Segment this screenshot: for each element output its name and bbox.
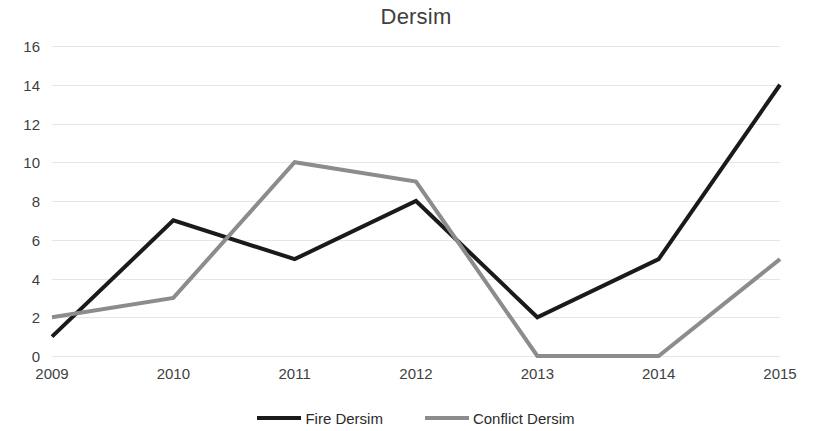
y-tick-label: 16 <box>0 39 40 54</box>
series-lines <box>52 46 780 356</box>
legend-label: Fire Dersim <box>305 411 383 426</box>
y-tick-label: 2 <box>0 310 40 325</box>
chart-container: Dersim 1614121086420 2009201020112012201… <box>0 0 832 431</box>
y-tick-label: 14 <box>0 77 40 92</box>
legend-label: Conflict Dersim <box>473 411 575 426</box>
legend-line-icon <box>425 416 469 420</box>
x-axis: 2009201020112012201320142015 <box>52 366 780 390</box>
x-tick-label: 2010 <box>157 366 190 381</box>
legend-line-icon <box>257 416 301 420</box>
x-tick-label: 2013 <box>521 366 554 381</box>
y-tick-label: 8 <box>0 194 40 209</box>
y-tick-label: 4 <box>0 271 40 286</box>
x-tick-label: 2009 <box>35 366 68 381</box>
x-tick-label: 2015 <box>763 366 796 381</box>
legend-item[interactable]: Fire Dersim <box>257 411 383 426</box>
y-tick-label: 0 <box>0 349 40 364</box>
chart-title: Dersim <box>0 4 832 30</box>
x-tick-label: 2014 <box>642 366 675 381</box>
series-line <box>52 162 780 356</box>
y-tick-label: 12 <box>0 116 40 131</box>
plot-area <box>52 46 780 356</box>
x-tick-label: 2011 <box>279 366 311 381</box>
y-axis: 1614121086420 <box>0 46 40 356</box>
gridline <box>52 356 780 357</box>
chart-legend: Fire DersimConflict Dersim <box>0 405 832 431</box>
y-tick-label: 6 <box>0 232 40 247</box>
x-tick-label: 2012 <box>399 366 432 381</box>
y-tick-label: 10 <box>0 155 40 170</box>
legend-item[interactable]: Conflict Dersim <box>425 411 575 426</box>
